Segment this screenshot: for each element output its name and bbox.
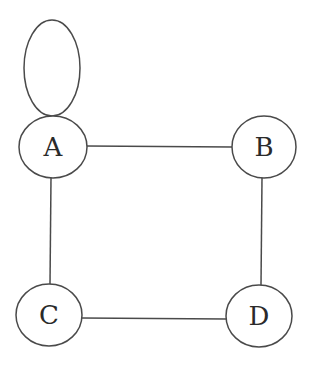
node-a: A [19, 116, 87, 178]
node-b-label: B [254, 132, 273, 162]
edge-a-c [50, 178, 51, 284]
edge-b-d [261, 178, 262, 285]
node-b: B [232, 116, 296, 178]
node-c: C [16, 284, 82, 346]
node-d: D [226, 285, 292, 347]
nodes: A B C D [16, 116, 296, 347]
graph-svg: A B C D [0, 0, 309, 368]
node-a-label: A [43, 132, 64, 162]
node-d-label: D [249, 301, 270, 331]
graph-diagram: A B C D [0, 0, 309, 368]
node-c-label: C [39, 300, 59, 330]
edge-c-d [82, 318, 226, 319]
edge-self-loop-a [24, 20, 80, 116]
edge-a-b [87, 146, 232, 147]
